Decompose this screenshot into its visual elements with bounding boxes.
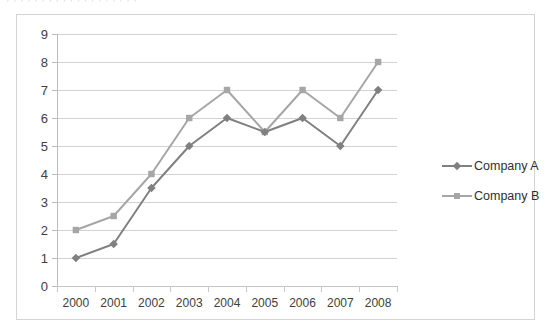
x-axis-label-2007: 2007 bbox=[327, 296, 354, 310]
data-point-company-b-2002 bbox=[148, 171, 154, 177]
x-axis-label-2001: 2001 bbox=[100, 296, 127, 310]
x-tick-7 bbox=[321, 286, 322, 292]
x-axis-label-2004: 2004 bbox=[214, 296, 241, 310]
data-point-company-b-2003 bbox=[186, 115, 192, 121]
x-tick-5 bbox=[246, 286, 247, 292]
legend-label: Company A bbox=[474, 159, 539, 173]
data-point-company-b-2008 bbox=[375, 59, 381, 65]
x-tick-9 bbox=[397, 286, 398, 292]
x-axis-label-2005: 2005 bbox=[251, 296, 278, 310]
x-tick-0 bbox=[57, 286, 58, 292]
data-point-company-b-2001 bbox=[110, 213, 116, 219]
data-point-company-a-2000 bbox=[72, 254, 80, 262]
plot-area: 0123456789 20002001200220032004200520062… bbox=[57, 34, 397, 286]
x-tick-6 bbox=[284, 286, 285, 292]
data-point-company-b-2000 bbox=[73, 227, 79, 233]
y-axis-label-8: 8 bbox=[41, 55, 48, 70]
chart-legend: Company ACompany B bbox=[442, 159, 539, 203]
y-axis-label-3: 3 bbox=[41, 195, 48, 210]
data-point-company-b-2006 bbox=[299, 87, 305, 93]
legend-label: Company B bbox=[474, 189, 539, 203]
y-axis-label-6: 6 bbox=[41, 111, 48, 126]
x-tick-3 bbox=[170, 286, 171, 292]
y-axis-label-5: 5 bbox=[41, 139, 48, 154]
series-lines-group bbox=[57, 34, 397, 286]
y-axis-label-2: 2 bbox=[41, 223, 48, 238]
y-axis-label-0: 0 bbox=[41, 279, 48, 294]
x-tick-4 bbox=[208, 286, 209, 292]
gridline-0 bbox=[57, 286, 397, 287]
chart-page: ; ; ; ; ; ; ; ; ; ; ; ; ; ; ; ; ; ; ; 01… bbox=[0, 0, 548, 334]
data-point-company-b-2007 bbox=[337, 115, 343, 121]
data-point-company-b-2004 bbox=[224, 87, 230, 93]
x-axis-label-2002: 2002 bbox=[138, 296, 165, 310]
legend-swatch-icon bbox=[442, 190, 472, 202]
legend-marker-square-icon bbox=[454, 193, 460, 199]
legend-swatch-icon bbox=[442, 160, 472, 172]
ghost-text: ; ; ; ; ; ; ; ; ; ; ; ; ; ; ; ; ; ; ; bbox=[6, 0, 137, 3]
x-axis-label-2006: 2006 bbox=[289, 296, 316, 310]
clipped-text-above-figure: ; ; ; ; ; ; ; ; ; ; ; ; ; ; ; ; ; ; ; bbox=[0, 0, 548, 9]
legend-item-company-a[interactable]: Company A bbox=[442, 159, 539, 173]
x-tick-1 bbox=[95, 286, 96, 292]
x-tick-2 bbox=[133, 286, 134, 292]
chart-frame: 0123456789 20002001200220032004200520062… bbox=[16, 14, 535, 320]
y-axis-label-7: 7 bbox=[41, 83, 48, 98]
x-tick-8 bbox=[359, 286, 360, 292]
y-axis-label-4: 4 bbox=[41, 167, 48, 182]
y-axis-label-1: 1 bbox=[41, 251, 48, 266]
legend-item-company-b[interactable]: Company B bbox=[442, 189, 539, 203]
x-axis-label-2008: 2008 bbox=[365, 296, 392, 310]
legend-marker-diamond-icon bbox=[453, 162, 461, 170]
x-axis-label-2000: 2000 bbox=[63, 296, 90, 310]
x-axis-label-2003: 2003 bbox=[176, 296, 203, 310]
y-axis-label-9: 9 bbox=[41, 27, 48, 42]
